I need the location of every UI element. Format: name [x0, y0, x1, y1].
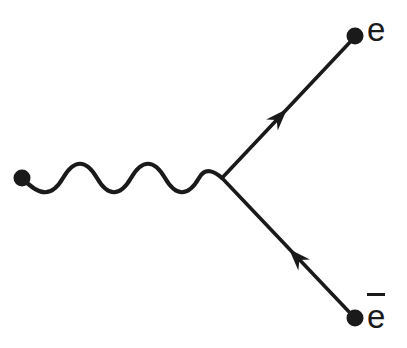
positron-label: e — [367, 292, 385, 333]
positron-fermion-line — [222, 178, 352, 315]
overbar-icon — [367, 293, 385, 296]
positron-overbar-group: e — [367, 292, 385, 333]
positron-label-text: e — [367, 292, 385, 333]
positron-endpoint-dot — [347, 310, 364, 327]
electron-label: e — [367, 13, 385, 46]
electron-label-text: e — [367, 11, 385, 48]
feynman-diagram-canvas — [0, 0, 407, 348]
electron-endpoint-dot — [347, 28, 364, 45]
photon-source-dot — [14, 170, 31, 187]
photon-wavy-line — [22, 164, 222, 193]
feynman-diagram: e e — [0, 0, 407, 348]
